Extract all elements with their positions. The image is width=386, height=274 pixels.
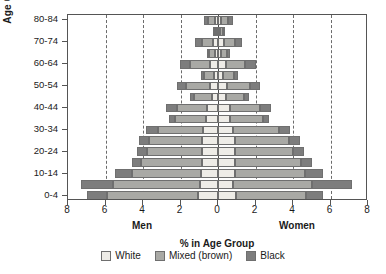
bar-segment-men-white [210,60,218,69]
bar-segment-women-mixed [233,180,312,189]
bar-segment-men-black [146,126,158,135]
y-tick-label: 0-4 [0,189,58,200]
bar-segment-women-black [263,115,269,124]
pyramid-row [68,126,366,135]
bar-segment-men-white [203,126,218,135]
bar-segment-men-mixed [149,136,202,145]
pyramid-row [68,147,366,156]
bar-segment-men-mixed [186,82,209,91]
bar-segment-women-black [293,147,304,156]
bar-segment-men-black [81,180,113,189]
bar-segment-men-mixed [175,115,207,124]
pyramid-row [68,191,366,200]
bar-segment-men-mixed [113,180,200,189]
bar-segment-men-mixed [194,93,211,102]
bar-segment-women-white [218,60,226,69]
bar-segment-women-black [228,16,233,25]
y-tick-label: 80-84 [0,13,58,24]
bar-segment-men-mixed [202,38,213,47]
pyramid-row [68,115,366,124]
bar-segment-women-mixed [224,38,236,47]
bar-segment-women-mixed [235,136,290,145]
bar-segment-women-white [218,147,235,156]
bar-segment-men-mixed [107,191,198,200]
bar-segment-men-white [206,115,218,124]
legend-swatch-icon [155,251,165,261]
bar-segment-men-white [202,147,219,156]
bar-segment-women-black [279,126,291,135]
bar-segment-men-mixed [190,60,210,69]
bar-segment-women-black [306,191,323,200]
bar-segment-women-black [227,49,229,58]
bar-segment-men-black [169,115,175,124]
bar-segment-women-white [218,126,233,135]
bar-segment-women-black [301,158,312,167]
pyramid-row [68,136,366,145]
y-tick-label: 20-24 [0,145,58,156]
pyramid-row [68,27,366,36]
bar-segment-women-black [250,82,260,91]
bar-segment-women-mixed [235,158,301,167]
x-tick-label: 4 [280,204,304,215]
bar-segment-men-mixed [141,158,201,167]
pyramid-row [68,104,366,113]
pyramid-row [68,60,366,69]
bar-segment-women-black [245,60,256,69]
bar-segment-women-mixed [236,191,306,200]
bar-segment-men-white [198,191,218,200]
bar-segment-men-white [201,169,218,178]
pyramid-row [68,169,366,178]
bar-segment-women-black [289,136,299,145]
bar-segment-women-black [234,71,237,80]
y-tick-label: 40-44 [0,101,58,112]
legend-label: Black [260,250,284,261]
legend-label: White [115,250,141,261]
bar-segment-women-white [218,191,236,200]
bar-segment-women-mixed [230,115,264,124]
population-pyramid-chart: Age Group 0-410-1420-2430-3440-4450-5460… [0,0,386,274]
bar-segment-men-mixed [158,126,203,135]
x-tick-label: 0 [205,204,229,215]
bar-segment-women-white [218,180,233,189]
x-tick-label: 6 [93,204,117,215]
bar-segment-women-white [218,104,230,113]
bar-segment-men-mixed [132,169,201,178]
bar-segment-men-black [137,147,146,156]
bar-segment-women-mixed [235,147,293,156]
bar-segment-men-mixed [204,71,214,80]
bar-segment-men-white [207,104,218,113]
y-tick-label: 60-64 [0,57,58,68]
pyramid-row [68,71,366,80]
bar-segment-men-black [139,136,148,145]
plot-area [67,14,367,200]
bar-segment-women-black [305,169,323,178]
y-tick-label: 70-74 [0,35,58,46]
bar-segment-women-black [312,180,352,189]
bar-segment-women-black [244,93,249,102]
bar-segment-women-black [223,27,225,36]
bar-segment-women-black [235,38,242,47]
x-tick-label: 2 [168,204,192,215]
bar-segment-men-black [213,27,215,36]
bar-segment-women-mixed [235,169,305,178]
legend-item: White [101,250,141,261]
bar-segment-women-mixed [230,104,260,113]
bar-segment-women-white [218,169,235,178]
bar-segment-men-black [180,60,190,69]
pyramid-row [68,82,366,91]
y-tick-label: 10-14 [0,167,58,178]
bar-segment-men-white [200,180,218,189]
bar-segment-men-black [166,104,176,113]
bar-segment-women-mixed [221,16,228,25]
bar-segment-men-mixed [177,104,207,113]
women-group-label: Women [262,220,332,231]
x-tick-label: 4 [130,204,154,215]
pyramid-row [68,93,366,102]
bar-segment-women-white [218,158,235,167]
pyramid-row [68,49,366,58]
x-tick-label: 6 [318,204,342,215]
bar-segment-men-black [204,16,208,25]
bar-segment-women-black [260,104,271,113]
y-tick-label: 50-54 [0,79,58,90]
bar-segment-men-black [132,158,141,167]
